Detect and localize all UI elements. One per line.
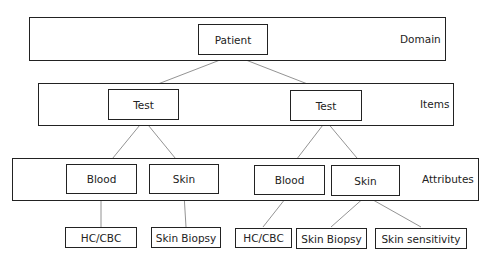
patient-node: Patient <box>198 24 268 55</box>
domain-label: Domain <box>400 33 441 45</box>
leaf-hc-cbc-1: HC/CBC <box>65 227 137 248</box>
test-node-1: Test <box>108 89 179 120</box>
skin-node-1: Skin <box>149 164 219 194</box>
attributes-label: Attributes <box>422 173 474 185</box>
test-node-2: Test <box>290 90 362 121</box>
leaf-hc-cbc-2: HC/CBC <box>235 228 292 248</box>
leaf-skin-biopsy-1: Skin Biopsy <box>151 227 221 248</box>
blood-node-1: Blood <box>66 164 137 194</box>
blood-node-2: Blood <box>254 165 325 195</box>
items-band <box>38 83 454 126</box>
leaf-skin-biopsy-2: Skin Biopsy <box>296 228 367 249</box>
items-label: Items <box>420 98 449 110</box>
leaf-skin-sensitivity: Skin sensitivity <box>375 228 467 249</box>
skin-node-2: Skin <box>331 165 400 196</box>
